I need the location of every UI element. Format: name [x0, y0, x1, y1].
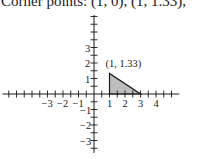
x-tick-label: −3	[42, 98, 53, 109]
y-tick-label: −1	[80, 105, 91, 116]
coordinate-plane: −3−2−11234321−1−2−3(1, 1.33)	[0, 0, 197, 159]
y-tick-label: −2	[80, 120, 91, 131]
x-tick-label: −2	[57, 98, 68, 109]
y-tick-label: 1	[85, 74, 90, 85]
point-annotation: (1, 1.33)	[106, 58, 142, 70]
y-tick-label: −3	[80, 136, 91, 147]
x-tick-label: 2	[123, 98, 128, 109]
x-tick-label: 1	[107, 98, 112, 109]
x-tick-label: 3	[138, 98, 143, 109]
y-tick-label: 2	[85, 58, 90, 69]
y-tick-label: 3	[85, 43, 90, 54]
x-tick-label: 4	[154, 98, 160, 109]
